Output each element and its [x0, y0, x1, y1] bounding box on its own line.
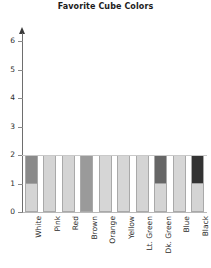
y-axis-tick-label: 5: [1, 65, 15, 74]
bar-segment: [155, 184, 166, 211]
bar-lt-green[interactable]: [136, 155, 149, 212]
bar-segment: [26, 184, 37, 211]
value-2-gridline: [22, 155, 207, 156]
bar-segment: [155, 156, 166, 184]
bar-segment: [137, 156, 148, 211]
bar-segment: [44, 156, 55, 211]
bar-blue[interactable]: [173, 155, 186, 212]
x-axis-label-brown: Brown: [90, 216, 99, 240]
x-axis-label-yellow: Yellow: [127, 216, 136, 239]
x-axis-label-orange: Orange: [108, 216, 117, 244]
x-axis-label-lt-green: Lt. Green: [145, 216, 154, 251]
bar-segment: [26, 156, 37, 184]
y-axis-tick-label: 0: [1, 207, 15, 216]
bar-segment: [174, 156, 185, 211]
chart-title: Favorite Cube Colors: [0, 2, 211, 11]
bar-segment: [118, 156, 129, 211]
bar-segment: [192, 156, 203, 184]
bar-yellow[interactable]: [117, 155, 130, 212]
y-axis-tick-label: 4: [1, 93, 15, 102]
x-axis-label-blue: Blue: [182, 216, 191, 233]
bar-dk-green[interactable]: [154, 155, 167, 212]
chart-container: Favorite Cube Colors 0123456 WhitePinkRe…: [0, 0, 211, 268]
x-axis-label-white: White: [34, 216, 43, 238]
bar-white[interactable]: [25, 155, 38, 212]
x-axis-label-dk-green: Dk. Green: [164, 216, 173, 254]
y-axis-tick-label: 1: [1, 179, 15, 188]
y-axis-tick-label: 6: [1, 36, 15, 45]
bar-brown[interactable]: [80, 155, 93, 212]
plot-area: [22, 41, 207, 212]
bar-orange[interactable]: [99, 155, 112, 212]
bar-segment: [100, 156, 111, 211]
x-axis-line: [22, 212, 207, 213]
x-axis-label-red: Red: [71, 216, 80, 230]
bar-segment: [81, 156, 92, 211]
y-axis-tick-label: 2: [1, 150, 15, 159]
bar-black[interactable]: [191, 155, 204, 212]
x-axis-label-black: Black: [201, 216, 210, 236]
x-axis-label-pink: Pink: [53, 216, 62, 232]
y-axis-tick: [18, 212, 23, 213]
bar-red[interactable]: [62, 155, 75, 212]
bar-pink[interactable]: [43, 155, 56, 212]
y-axis-tick-label: 3: [1, 122, 15, 131]
bar-segment: [63, 156, 74, 211]
bar-segment: [192, 184, 203, 211]
